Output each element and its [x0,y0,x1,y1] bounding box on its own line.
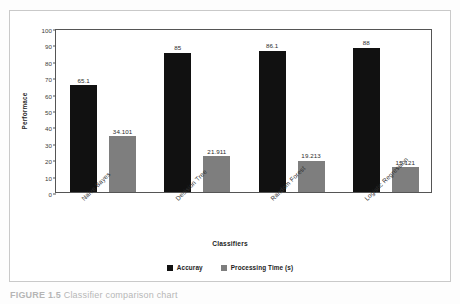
y-axis-tick-label: 0 [48,191,52,198]
legend-swatch-icon [167,265,173,271]
y-axis-tick-mark [53,62,56,63]
y-axis-tick-mark [53,46,56,47]
y-axis-tick-mark [53,30,56,31]
chart-legend: AccurayProcessing Time (s) [10,264,450,271]
y-axis-tick-label: 100 [41,27,52,34]
y-axis-tick-mark [53,177,56,178]
bar: 65.1 [70,85,97,192]
bar: 86.1 [259,51,286,192]
y-axis-tick-label: 10 [45,174,52,181]
x-axis-title: Classifiers [10,240,450,247]
bar-value-label: 65.1 [77,77,89,84]
y-axis-tick-label: 70 [45,76,52,83]
y-axis-tick-label: 20 [45,158,52,165]
legend-item[interactable]: Accuray [167,264,203,271]
bar: 21.911 [203,156,230,192]
legend-item-label: Processing Time (s) [231,264,294,271]
y-axis-tick-label: 40 [45,125,52,132]
y-axis-tick-mark [53,144,56,145]
y-axis-tick-mark [53,194,56,195]
y-axis-tick-mark [53,95,56,96]
figure-caption: FIGURE 1.5 Classifier comparison chart [10,290,178,300]
bar-value-label: 19.213 [301,152,321,159]
bar-value-label: 34.101 [113,128,133,135]
legend-item[interactable]: Processing Time (s) [221,264,294,271]
y-axis-tick-mark [53,128,56,129]
y-axis-tick-label: 90 [45,43,52,50]
y-axis-tick-mark [53,79,56,80]
bar-value-label: 21.911 [207,148,226,155]
bar-value-label: 85 [174,44,181,51]
plot-area: 0102030405060708090100 65.134.1018521.91… [55,29,432,193]
y-axis-tick-label: 50 [45,109,52,116]
figure-container: Performace 0102030405060708090100 65.134… [9,10,451,282]
figure-caption-text: Classifier comparison chart [64,290,178,300]
legend-swatch-icon [221,265,227,271]
bar: 85 [164,53,191,192]
y-axis-tick-label: 80 [45,59,52,66]
y-axis-tick-mark [53,161,56,162]
bar-value-label: 86.1 [266,42,278,49]
legend-item-label: Accuray [177,264,203,271]
y-axis-tick-label: 30 [45,141,52,148]
y-axis-tick-mark [53,112,56,113]
bar-value-label: 88 [363,39,370,46]
figure-page: Performace 0102030405060708090100 65.134… [0,0,460,304]
bar: 88 [353,48,380,192]
bar: 34.101 [109,136,136,192]
y-axis-title: Performace [21,92,28,129]
y-axis-tick-label: 60 [45,92,52,99]
figure-caption-label: FIGURE 1.5 [10,290,61,300]
